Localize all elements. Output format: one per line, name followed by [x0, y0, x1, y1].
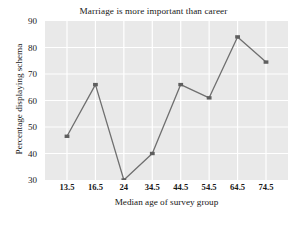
data-point-marker: [207, 96, 212, 99]
x-axis-tick-label: 16.5: [88, 182, 103, 192]
y-axis-tick-label: 80: [28, 43, 37, 53]
data-series: [45, 21, 288, 180]
data-point-marker: [235, 35, 240, 38]
x-axis-tick-label: 44.5: [173, 182, 188, 192]
x-axis-tick-label: 64.5: [230, 182, 245, 192]
x-axis-tick-label: 24: [120, 182, 129, 192]
chart-title: Marriage is more important than career: [0, 6, 307, 16]
y-axis-tick-label: 30: [28, 175, 37, 185]
data-point-marker: [178, 83, 183, 86]
data-point-marker: [65, 135, 70, 138]
y-axis-tick-label: 50: [28, 122, 37, 132]
y-axis-tick-label: 40: [28, 149, 37, 159]
y-axis-tick-label: 60: [28, 96, 37, 106]
x-axis-tick-labels: 13.516.52434.544.554.564.574.5: [45, 182, 288, 196]
line-chart: Marriage is more important than career 3…: [0, 0, 307, 228]
plot-area: [45, 21, 288, 180]
series-line: [67, 37, 266, 180]
data-point-marker: [93, 83, 98, 86]
x-axis-tick-label: 74.5: [258, 182, 273, 192]
x-axis-tick-label: 54.5: [202, 182, 217, 192]
data-point-marker: [150, 152, 155, 155]
x-axis-tick-label: 34.5: [145, 182, 160, 192]
y-axis-tick-label: 90: [28, 16, 37, 26]
y-axis-title: Percentage displaying schema: [14, 19, 24, 179]
data-point-marker: [264, 60, 269, 63]
data-point-marker: [121, 178, 126, 180]
x-axis-tick-label: 13.5: [59, 182, 74, 192]
y-axis-tick-label: 70: [28, 69, 37, 79]
x-axis-title: Median age of survey group: [45, 197, 288, 207]
